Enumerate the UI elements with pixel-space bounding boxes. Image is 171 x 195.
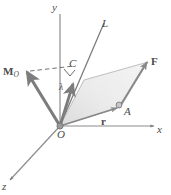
- point-A-label: A: [124, 106, 131, 117]
- right-angle-mark: [64, 69, 75, 76]
- dashed-construction-line: [30, 66, 74, 71]
- moment-vector-MO: [27, 72, 60, 126]
- moment-MO-label-main: M: [3, 65, 13, 77]
- moment-MO-label: MO: [3, 62, 19, 78]
- force-moment-diagram: y x z L MO C λ F A r O: [0, 0, 171, 195]
- z-axis-label: z: [2, 181, 6, 192]
- diagram-canvas: [0, 0, 171, 195]
- force-F-label: F: [151, 56, 158, 67]
- x-axis-label: x: [157, 124, 162, 135]
- origin-O-label: O: [57, 129, 65, 140]
- z-axis-line: [10, 126, 60, 180]
- unit-vector-lambda-label: λ: [59, 83, 63, 93]
- position-r-label: r: [101, 116, 106, 127]
- moment-MO-label-subscript: O: [13, 70, 18, 79]
- y-axis-label: y: [52, 2, 57, 13]
- point-C-label: C: [69, 58, 76, 69]
- line-L-label: L: [102, 18, 108, 29]
- point-A-marker: [116, 102, 122, 108]
